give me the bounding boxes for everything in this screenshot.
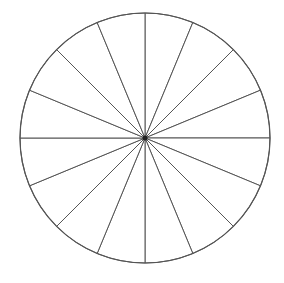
pie-chart [0, 0, 284, 283]
pie-center [143, 136, 148, 141]
